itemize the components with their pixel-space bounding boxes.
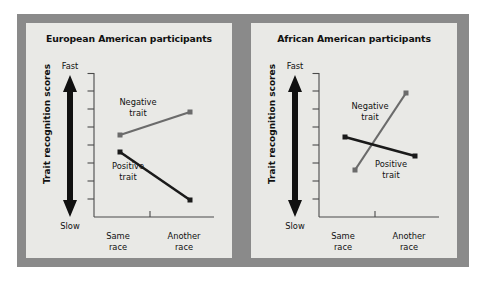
- series-label-positive-trait: Positive trait: [100, 161, 156, 182]
- series-label-line1: Positive: [112, 161, 144, 171]
- x-tick-line2: race: [334, 242, 352, 252]
- x-tick-line1: Another: [392, 231, 425, 241]
- axes-and-series: [311, 73, 441, 225]
- axes-and-series: [86, 73, 216, 225]
- x-tick-line2: race: [175, 242, 193, 252]
- series-label-line2: trait: [361, 112, 378, 122]
- y-axis-bottom-cap-label: Slow: [283, 221, 307, 231]
- x-tick-line1: Same: [331, 231, 355, 241]
- x-tick-line1: Same: [106, 231, 130, 241]
- x-tick-label-another-race: Another race: [381, 231, 437, 253]
- x-tick-label-same-race: Same race: [90, 231, 146, 253]
- double-headed-arrow-icon: [58, 75, 82, 217]
- series-label-negative-trait: Negative trait: [108, 97, 168, 118]
- x-tick-line1: Another: [167, 231, 200, 241]
- y-axis-top-cap-label: Fast: [283, 61, 307, 71]
- series-label-line2: trait: [129, 108, 146, 118]
- plot-area: Negative trait Positive trait Same race …: [311, 73, 441, 225]
- plot-area: Negative trait Positive trait Same race …: [86, 73, 216, 225]
- series-label-negative-trait: Negative trait: [339, 101, 401, 122]
- y-axis-label: Trait recognition scores: [267, 59, 277, 189]
- y-axis-top-cap-label: Fast: [58, 61, 82, 71]
- fast-slow-arrow-group: Fast Slow: [283, 61, 307, 231]
- x-tick-line2: race: [400, 242, 418, 252]
- y-axis-bottom-cap-label: Slow: [58, 221, 82, 231]
- panel-european-american: European American participants Trait rec…: [26, 23, 232, 258]
- x-tick-line2: race: [109, 242, 127, 252]
- series-label-line2: trait: [382, 170, 399, 180]
- series-label-line2: trait: [119, 172, 136, 182]
- series-label-line1: Negative: [351, 101, 388, 111]
- series-label-line1: Positive: [375, 159, 407, 169]
- x-tick-label-same-race: Same race: [315, 231, 371, 253]
- double-headed-arrow-icon: [283, 75, 307, 217]
- figure-root: European American participants Trait rec…: [0, 0, 486, 281]
- series-label-positive-trait: Positive trait: [363, 159, 419, 180]
- series-label-line1: Negative: [119, 97, 156, 107]
- fast-slow-arrow-group: Fast Slow: [58, 61, 82, 231]
- panel-title: African American participants: [251, 33, 457, 44]
- panel-title: European American participants: [26, 33, 232, 44]
- x-tick-label-another-race: Another race: [156, 231, 212, 253]
- y-axis-label: Trait recognition scores: [42, 59, 52, 189]
- panel-african-american: African American participants Trait reco…: [251, 23, 457, 258]
